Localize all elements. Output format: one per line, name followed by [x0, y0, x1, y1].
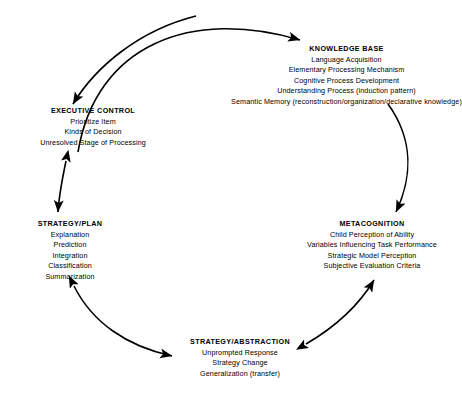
- node-strategy-plan-item: Explanation: [0, 230, 140, 241]
- node-knowledge-base-item: Semantic Memory (reconstruction/organiza…: [231, 97, 462, 108]
- node-executive-control-item: Kinds of Decision: [0, 127, 186, 138]
- node-executive-control: EXECUTIVE CONTROL Prioritize Item Kinds …: [0, 106, 186, 148]
- edge-strategy-abstraction-to-metacognition: [306, 280, 374, 344]
- node-strategy-plan-title: STRATEGY/PLAN: [0, 219, 140, 230]
- node-metacognition-title: METACOGNITION: [282, 219, 462, 230]
- node-strategy-abstraction-item: Generalization (transfer): [152, 369, 328, 380]
- node-strategy-plan-item: Integration: [0, 251, 140, 262]
- node-executive-control-item: Prioritize Item: [0, 117, 186, 128]
- edge-top-inbound-executive-control: [73, 16, 196, 104]
- node-knowledge-base-item: Understanding Process (induction pattern…: [231, 86, 462, 97]
- node-executive-control-item: Unresolved Stage of Processing: [0, 138, 186, 149]
- node-metacognition-item: Variables Influencing Task Performance: [282, 240, 462, 251]
- node-metacognition: METACOGNITION Child Perception of Abilit…: [282, 219, 462, 272]
- node-knowledge-base-item: Elementary Processing Mechanism: [231, 65, 462, 76]
- node-strategy-abstraction-item: Unprompted Response: [152, 348, 328, 359]
- node-knowledge-base: KNOWLEDGE BASE Language Acquisition Elem…: [231, 44, 462, 107]
- node-strategy-plan-item: Summarization: [0, 272, 140, 283]
- node-strategy-abstraction-title: STRATEGY/ABSTRACTION: [152, 337, 328, 348]
- node-strategy-plan-item: Prediction: [0, 240, 140, 251]
- node-metacognition-item: Strategic Model Perception: [282, 251, 462, 262]
- node-strategy-plan-item: Classification: [0, 261, 140, 272]
- edge-executive-control-to-strategy-plan: [58, 161, 66, 212]
- node-knowledge-base-item: Language Acquisition: [231, 55, 462, 66]
- edge-knowledge-base-to-metacognition: [388, 104, 408, 212]
- node-knowledge-base-item: Cognitive Process Development: [231, 76, 462, 87]
- node-strategy-abstraction: STRATEGY/ABSTRACTION Unprompted Response…: [152, 337, 328, 379]
- node-executive-control-title: EXECUTIVE CONTROL: [0, 106, 186, 117]
- node-metacognition-item: Child Perception of Ability: [282, 230, 462, 241]
- node-knowledge-base-title: KNOWLEDGE BASE: [231, 44, 462, 55]
- node-strategy-abstraction-item: Strategy Change: [152, 358, 328, 369]
- node-metacognition-item: Subjective Evaluation Criteria: [282, 261, 462, 272]
- node-strategy-plan: STRATEGY/PLAN Explanation Prediction Int…: [0, 219, 140, 282]
- cycle-diagram: KNOWLEDGE BASE Language Acquisition Elem…: [0, 0, 462, 396]
